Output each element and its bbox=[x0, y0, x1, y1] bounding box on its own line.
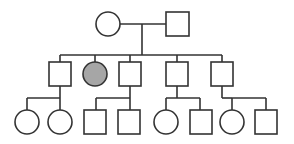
male-unaffected-g3-4 bbox=[118, 110, 140, 134]
female-unaffected-g3-1 bbox=[15, 110, 39, 134]
male-unaffected-g2-1 bbox=[49, 62, 71, 86]
female-unaffected-g3-5 bbox=[154, 110, 178, 134]
male-unaffected-g1 bbox=[166, 12, 189, 36]
male-unaffected-g2-3 bbox=[119, 62, 141, 86]
female-unaffected-g3-2 bbox=[48, 110, 72, 134]
male-unaffected-g3-3 bbox=[84, 110, 106, 134]
female-affected-g2-2 bbox=[83, 62, 107, 86]
pedigree-chart bbox=[0, 0, 294, 144]
male-unaffected-g2-4 bbox=[166, 62, 188, 86]
male-unaffected-g2-5 bbox=[211, 62, 233, 86]
male-unaffected-g3-6 bbox=[190, 110, 212, 134]
male-unaffected-g3-8 bbox=[255, 110, 277, 134]
female-unaffected-g1 bbox=[96, 12, 120, 36]
female-unaffected-g3-7 bbox=[220, 110, 244, 134]
